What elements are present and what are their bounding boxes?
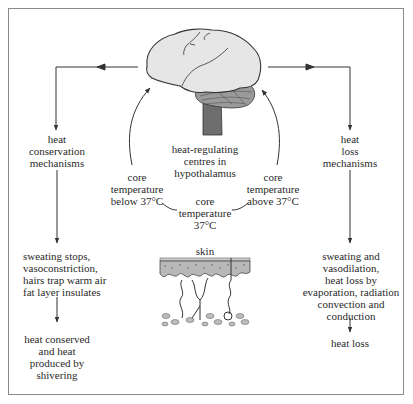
core-temp-below-label: core temperature below 37°C xyxy=(102,171,172,207)
skin-cross-section-icon xyxy=(160,258,250,326)
feedback-curve-right xyxy=(262,90,279,165)
arrow-to-heat-conservation xyxy=(56,64,138,130)
heat-conservation-title: heat conservation mechanisms xyxy=(20,133,94,169)
heat-loss-effects: sweating and vasodilation, heat loss by … xyxy=(300,250,402,322)
core-temp-above-label: core temperature above 37°C xyxy=(236,171,310,207)
feedback-curve-left xyxy=(129,88,150,165)
core-temp-normal-label: core temperature 37°C xyxy=(172,195,238,231)
brain-icon xyxy=(147,29,261,135)
skin-label: skin xyxy=(185,245,225,257)
heat-conservation-result: heat conserved and heat produced by shiv… xyxy=(17,333,97,381)
heat-loss-title: heat loss mechanisms xyxy=(312,133,388,169)
heat-conservation-effects: sweating stops, vasoconstriction, hairs … xyxy=(23,250,133,298)
arrow-to-heat-loss xyxy=(268,64,350,130)
heat-loss-result: heat loss xyxy=(315,337,385,349)
